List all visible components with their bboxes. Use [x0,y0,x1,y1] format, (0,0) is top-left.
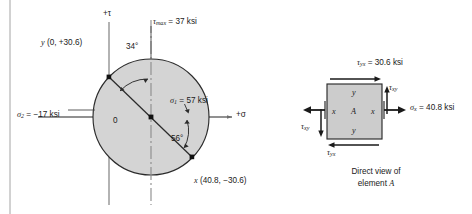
tau-xy-left-subscript: xy [304,125,309,131]
tau-max-label: τmax = 37 ksi [153,17,197,27]
tau-xy-left-label: τxy [301,122,309,132]
tau-yx-bottom-arrowhead [328,142,335,147]
tau-axis-label: +τ [103,9,111,18]
sigma-x-value: = 40.8 ksi [417,103,455,112]
sigma2-label: σ2 = −17 ksi [17,110,60,120]
element-face-bottom-label: y [352,126,356,135]
figure-canvas: +τ +σ 0 τmax = 37 ksi σ1 = 57 ksi σ2 = −… [0,0,472,214]
circle-center-marker [149,115,154,120]
tau-xy-right-subscript: xy [392,86,397,92]
element-face-left-label: x [332,107,336,116]
element-face-top-label: y [352,88,356,97]
sigma-x-left-arrowhead [303,106,311,114]
point-x-label: x (40.8, −30.6) [194,176,247,185]
tau-yx-bottom-subscript: yx [330,151,335,157]
tau-yx-top-arrowhead [375,76,382,81]
point-x-coordinates: (40.8, −30.6) [198,176,247,185]
element-face-right-label: x [371,107,375,116]
origin-label: 0 [113,116,118,125]
tau-yx-top-label: τyx = 30.6 ksi [357,58,403,68]
point-x-marker [190,155,195,160]
sigma-x-right-arrowhead [398,106,406,114]
element-caption-name: A [389,179,394,188]
angle-34-label: 34° [126,42,138,51]
point-y-coordinates: (0, +30.6) [45,38,83,47]
sigma2-value: = −17 ksi [24,110,60,119]
element-caption-line2: element A [320,179,432,188]
tau-max-value: = 37 ksi [166,17,197,26]
sigma1-value: = 57 ksi [177,96,208,105]
tau-xy-left-arrowhead [318,131,323,138]
point-y-label: y (0, +30.6) [41,38,82,47]
element-center-label: A [351,107,356,116]
sigma1-label: σ1 = 57 ksi [170,96,208,106]
sigma-axis-arrow [227,115,232,118]
sigma-axis-label: +σ [236,110,246,119]
element-caption-prefix: element [358,179,389,188]
tau-xy-right-label: τxy [389,83,397,93]
angle-56-label: 56° [171,134,183,143]
point-y-marker [107,75,112,80]
element-caption-line1: Direct view of [320,167,432,176]
tau-max-subscript: max [156,20,166,26]
sigma-x-label: σx = 40.8 ksi [410,103,454,113]
tau-yx-bottom-label: τyx [327,148,335,158]
tau-yx-top-value: = 30.6 ksi [365,58,403,67]
